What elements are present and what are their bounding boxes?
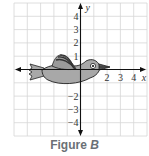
x-axis-arrow-left-icon xyxy=(15,67,21,72)
caption-letter: B xyxy=(90,138,99,152)
y-axis-label: y xyxy=(85,2,91,13)
y-tick-label: −2 xyxy=(68,91,79,102)
y-axis-arrow-up-icon xyxy=(78,3,83,9)
x-tick-label: 4 xyxy=(131,72,136,83)
y-tick-label: 1 xyxy=(74,51,79,62)
y-tick-label: 2 xyxy=(74,37,79,48)
bird-pupil xyxy=(92,65,94,67)
x-tick-label: 2 xyxy=(105,72,110,83)
x-axis-label: x xyxy=(141,72,147,83)
y-tick-label: −4 xyxy=(68,117,79,128)
y-tick-label: −3 xyxy=(68,104,79,115)
y-tick-label: 4 xyxy=(74,11,79,22)
coordinate-grid: 2344321−2−3−4xy xyxy=(0,0,149,138)
caption-prefix: Figure xyxy=(50,138,87,152)
axes xyxy=(15,3,146,136)
figure-caption: Figure B xyxy=(0,138,149,152)
y-tick-label: 3 xyxy=(74,24,79,35)
x-tick-label: 3 xyxy=(118,72,123,83)
y-axis-arrow-down-icon xyxy=(78,130,83,136)
